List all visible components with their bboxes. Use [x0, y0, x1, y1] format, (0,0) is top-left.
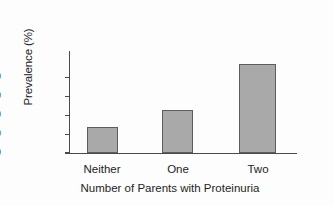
y-tick-label-0: 0: [0, 147, 1, 159]
y-tick-mark-20: [65, 115, 70, 116]
x-tick-label-neither: Neither: [62, 163, 142, 176]
x-tick-label-two: Two: [218, 163, 298, 176]
x-axis-line: [69, 153, 297, 154]
y-tick-label-40: 40: [0, 71, 1, 83]
bar-two: [239, 64, 276, 153]
y-tick-label-10: 10: [0, 128, 1, 140]
y-tick-mark-10: [65, 134, 70, 135]
y-tick-label-30: 30: [0, 90, 1, 102]
bar-chart-figure: Prevalence (%) 0 10 20 30 40 Neither One…: [0, 0, 334, 206]
y-tick-mark-0: [65, 152, 70, 153]
plot-area: 0 10 20 30 40 Neither One Two: [69, 51, 297, 153]
y-tick-mark-30: [65, 96, 70, 97]
x-axis-title: Number of Parents with Proteinuria: [30, 182, 310, 195]
y-tick-mark-40: [65, 77, 70, 78]
y-axis-line: [69, 51, 70, 153]
y-tick-label-20: 20: [0, 109, 1, 121]
y-axis-title: Prevalence (%): [17, 17, 39, 117]
bar-neither: [87, 127, 118, 153]
x-tick-label-one: One: [138, 163, 218, 176]
bar-one: [162, 110, 193, 153]
